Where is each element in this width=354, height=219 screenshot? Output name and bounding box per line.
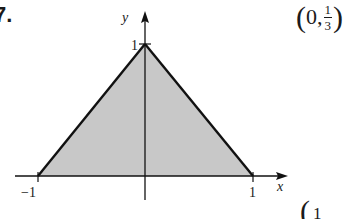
x-axis-label: x <box>276 179 284 194</box>
x-tick-label-pos: 1 <box>249 185 256 200</box>
x-tick-label-neg: −1 <box>21 185 36 200</box>
triangle-plot: y 1 −1 1 x <box>0 0 354 219</box>
y-tick-label: 1 <box>131 38 138 53</box>
y-axis-label: y <box>120 10 129 25</box>
